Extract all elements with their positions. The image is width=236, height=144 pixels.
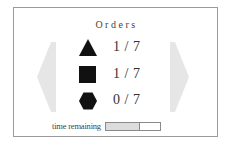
hexagon-icon [78,91,98,111]
timer-label: time remaining [52,121,101,131]
order-count: 1 / 7 [113,39,140,55]
time-remaining-fill [106,123,140,130]
square-icon [78,65,98,85]
panel-title: Orders [14,19,219,30]
order-row-hexagon: 0 / 7 [14,91,219,111]
order-row-triangle: 1 / 7 [14,38,219,58]
orders-panel: Orders 1 / 7 1 / 7 0 / 7 time remaining [13,7,218,137]
triangle-icon [78,38,98,58]
order-row-square: 1 / 7 [14,65,219,85]
order-count: 1 / 7 [113,66,140,82]
order-count: 0 / 7 [113,92,140,108]
time-remaining-bar [105,122,161,131]
